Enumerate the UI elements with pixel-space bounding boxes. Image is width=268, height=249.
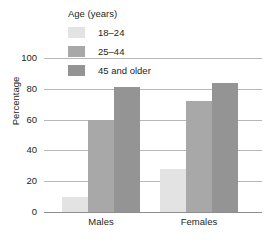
chart-legend: Age (years) 18–24 25–44 45 and older	[68, 8, 218, 81]
bar	[186, 101, 212, 212]
bar	[114, 87, 140, 212]
x-tick-label: Males	[88, 216, 113, 228]
y-tick-label: 100	[0, 53, 37, 63]
legend-swatch-icon	[68, 46, 85, 57]
y-tick-label: 80	[0, 84, 37, 94]
legend-item: 45 and older	[68, 62, 218, 78]
legend-swatch-icon	[68, 65, 85, 76]
y-tick-label: 40	[0, 145, 37, 155]
plot-area	[44, 58, 262, 212]
legend-item-label: 45 and older	[98, 65, 151, 76]
legend-item: 25–44	[68, 43, 218, 59]
y-axis-ticks: 020406080100	[0, 58, 40, 212]
bar	[160, 169, 186, 212]
bar-group	[62, 58, 140, 212]
bar-group	[160, 58, 238, 212]
x-axis-ticks: MalesFemales	[44, 216, 262, 236]
y-tick-label: 20	[0, 176, 37, 186]
bar-series-container	[44, 58, 262, 212]
legend-item: 18–24	[68, 24, 218, 40]
x-tick-label: Females	[181, 216, 217, 228]
legend-title: Age (years)	[68, 8, 218, 20]
bar	[212, 83, 238, 212]
legend-item-label: 18–24	[98, 27, 124, 38]
y-tick-label: 60	[0, 115, 37, 125]
x-axis-line	[44, 212, 262, 213]
bar	[88, 120, 114, 212]
legend-swatch-icon	[68, 27, 85, 38]
legend-item-label: 25–44	[98, 46, 124, 57]
y-tick-label: 0	[0, 207, 37, 217]
bar	[62, 197, 88, 212]
bar-chart: Age (years) 18–24 25–44 45 and older Per…	[0, 0, 268, 249]
